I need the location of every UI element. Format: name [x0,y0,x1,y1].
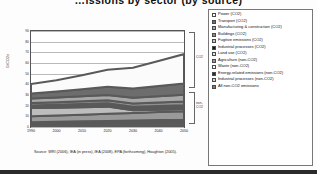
co2-bracket-label: CO2 [196,56,203,60]
x-tick-label: 1990 [27,129,35,133]
legend-swatch-icon [212,26,216,30]
legend-item[interactable]: Fugitive emissions (CO2) [212,38,310,43]
x-tick-label: 2050 [180,129,188,133]
source-note: Source: WRI (2006), IEA (in press), IEA … [34,150,204,156]
non-co2-label-line2: CO2 [196,105,203,109]
legend-item[interactable]: Land use (CO2) [212,51,310,56]
legend-item[interactable]: All non-CO2 emissions [212,84,310,89]
legend-swatch-icon [212,39,216,43]
legend-swatch-icon [212,78,216,82]
legend-item[interactable]: Transport (CO2) [212,19,310,24]
legend-item[interactable]: Energy-related emissions (non-CO2) [212,71,310,76]
y-tick-label: 10 [25,114,29,118]
legend-swatch-icon [212,20,216,24]
legend-swatch-icon [212,65,216,69]
legend-swatch-icon [212,33,216,37]
plot-area: 9080706050403020100 19902000201020202030… [30,30,185,128]
source-line-1: Source: WRI (2006), IEA (in press), IEA … [34,150,122,154]
legend-item-label: Industrial processes (CO2) [218,45,266,50]
legend-item-label: All non-CO2 emissions [218,84,259,89]
source-line-2: (forthcoming), Houghton (2005). [123,150,177,154]
legend-swatch-icon [212,13,216,17]
co2-bracket [189,32,195,88]
legend-swatch-icon [212,46,216,50]
legend-item-label: Agriculture (non-CO2) [218,58,257,63]
y-tick-label: 50 [25,72,29,76]
legend-item[interactable]: Waste (non-CO2) [212,64,310,69]
legend-swatch-icon [212,72,216,76]
y-tick-label: 30 [25,93,29,97]
chart-page: …issions by sector (by source) GtCO2e 90… [0,0,317,174]
legend-swatch-icon [212,59,216,63]
legend-item-label: Power (CO2) [218,12,241,17]
legend-item[interactable]: Industrial processes (non-CO2) [212,77,310,82]
page-title: …issions by sector (by source) [0,0,317,6]
x-tick-label: 2020 [104,129,112,133]
x-tick-label: 2010 [78,129,86,133]
non-co2-bracket [189,92,195,124]
legend-item-label: Transport (CO2) [218,19,247,24]
legend-item[interactable]: Agriculture (non-CO2) [212,58,310,63]
legend-item[interactable]: Industrial processes (CO2) [212,45,310,50]
y-tick-label: 40 [25,82,29,86]
legend-item-label: Waste (non-CO2) [218,64,249,69]
legend-item-label: Manufacturing & construction (CO2) [218,25,282,30]
chart-panel: GtCO2e 9080706050403020100 1990200020102… [4,10,204,168]
legend-swatch-icon [212,52,216,56]
legend-item-label: Land use (CO2) [218,51,246,56]
chart-legend: Power (CO2)Transport (CO2)Manufacturing … [208,9,313,166]
x-tick-label: 2040 [155,129,163,133]
y-tick-label: 20 [25,104,29,108]
y-tick-label: 90 [25,29,29,33]
legend-item-label: Industrial processes (non-CO2) [218,77,274,82]
y-tick-label: 80 [25,40,29,44]
x-tick-label: 2000 [53,129,61,133]
y-tick-label: 70 [25,50,29,54]
x-tick-label: 2030 [129,129,137,133]
stacked-area-bands [31,31,184,127]
y-tick-label: 60 [25,61,29,65]
legend-item[interactable]: Manufacturing & construction (CO2) [212,25,310,30]
legend-item-label: Buildings (CO2) [218,32,246,37]
legend-item[interactable]: Power (CO2) [212,12,310,17]
legend-item-label: Energy-related emissions (non-CO2) [218,71,283,76]
legend-swatch-icon [212,85,216,89]
gridline [31,127,184,128]
legend-item[interactable]: Buildings (CO2) [212,32,310,37]
non-co2-bracket-label: non- CO2 [196,102,203,110]
y-axis-label: GtCO2e [6,54,10,68]
sector-group-brackets: CO2 non- CO2 [187,30,207,128]
legend-item-label: Fugitive emissions (CO2) [218,38,263,43]
